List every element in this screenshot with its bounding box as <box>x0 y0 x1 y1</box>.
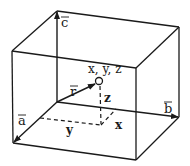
parallelepiped-diagram: c b a r x, y, z z y x <box>0 0 190 166</box>
box-edges <box>12 11 179 160</box>
diagram-canvas: c b a r x, y, z z y x <box>0 0 190 166</box>
label-point-coordinates: x, y, z <box>88 62 122 76</box>
label-b: b <box>164 101 172 116</box>
vector-b <box>57 102 178 117</box>
label-x: x <box>115 118 123 132</box>
label-z: z <box>104 91 111 105</box>
point-marker <box>96 78 103 85</box>
label-y: y <box>65 123 74 137</box>
